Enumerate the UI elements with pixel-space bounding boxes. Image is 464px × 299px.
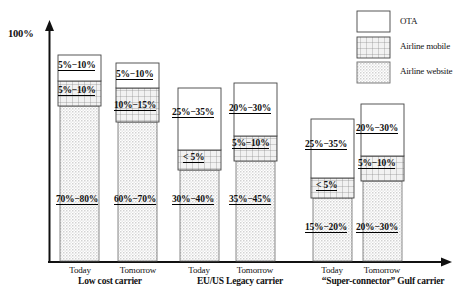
bar-3-segment-ota[interactable] <box>178 88 221 150</box>
bar-2-website-value: 60%−70% <box>114 194 156 205</box>
legend-label-airline-website: Airline website <box>400 66 452 76</box>
bar-6-mobile-value: 5%−10% <box>358 158 395 169</box>
bar-6-ota-value: 20%−30% <box>356 123 398 134</box>
bar-3-website-value: 30%−40% <box>172 194 214 205</box>
bar-4-mobile-value: 5%−10% <box>232 138 269 149</box>
bar-1-ota-value: 5%−10% <box>58 60 95 71</box>
bar-1-website-value: 70%−80% <box>56 194 98 205</box>
bar-6-segment-website[interactable] <box>363 181 402 261</box>
x-tick-label-2: Tomorrow <box>113 265 163 275</box>
bar-group-low-cost-tomorrow[interactable] <box>116 63 159 261</box>
bar-4-segment-website[interactable] <box>236 161 275 261</box>
bar-2-ota-value: 5%−10% <box>116 69 153 80</box>
bar-5-mobile-value: < 5% <box>316 180 337 191</box>
x-tick-label-3: Today <box>177 265 221 275</box>
x-tick-label-4: Tomorrow <box>230 265 280 275</box>
bar-3-mobile-value: < 5% <box>183 152 204 163</box>
x-tick-label-6: Tomorrow <box>357 265 407 275</box>
x-tick-label-5: Today <box>310 265 354 275</box>
bar-5-ota-value: 25%−35% <box>305 139 347 150</box>
legend-swatch-airline-mobile <box>357 37 390 58</box>
y-axis-max-label: 100% <box>8 28 33 39</box>
bar-5-website-value: 15%−20% <box>305 222 347 233</box>
legend-swatch-airline-website <box>357 62 390 83</box>
bar-3-segment-website[interactable] <box>180 170 219 261</box>
bar-3-ota-value: 25%−35% <box>172 107 214 118</box>
bar-4-ota-value: 20%−30% <box>229 103 271 114</box>
bar-2-mobile-value: 10%−15% <box>114 100 156 111</box>
x-tick-label-1: Today <box>58 265 102 275</box>
legend-label-airline-mobile: Airline mobile <box>400 41 450 51</box>
bar-6-website-value: 20%−30% <box>356 222 398 233</box>
bar-4-website-value: 35%−45% <box>229 194 271 205</box>
stacked-bar-chart <box>0 0 464 299</box>
bar-2-segment-website[interactable] <box>118 122 157 261</box>
legend <box>357 11 390 83</box>
group-label-low-cost-carrier: Low cost carrier <box>50 276 170 286</box>
bar-1-segment-website[interactable] <box>60 106 99 261</box>
bar-1-mobile-value: 5%−10% <box>58 85 95 96</box>
y-axis <box>45 20 54 262</box>
group-label-gulf-carrier: “Super-connector” Gulf carrier <box>288 276 464 286</box>
legend-label-ota: OTA <box>400 16 417 26</box>
legend-swatch-ota <box>357 11 390 32</box>
